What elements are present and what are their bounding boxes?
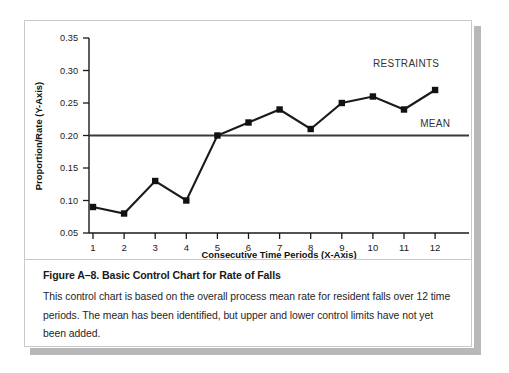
figure-box: 0.050.100.150.200.250.300.35 12345678910… (24, 20, 472, 347)
control-chart-panel: 0.050.100.150.200.250.300.35 12345678910… (25, 21, 471, 259)
figure-caption-body: This control chart is based on the overa… (43, 288, 455, 344)
caption-divider (25, 259, 471, 260)
y-tick-label: 0.35 (60, 33, 78, 43)
x-tick-label: 10 (368, 242, 379, 253)
series-label-restraints: RESTRAINTS (373, 58, 439, 69)
data-point-marker (432, 87, 438, 93)
figure-caption-title: Figure A–8. Basic Control Chart for Rate… (43, 269, 455, 281)
x-tick-label: 3 (153, 242, 158, 253)
y-tick-label-group: 0.050.100.150.200.250.300.35 (60, 33, 78, 238)
figure-shadow-bottom (30, 348, 481, 355)
data-point-marker (339, 100, 345, 106)
data-point-marker (370, 93, 376, 99)
figure-shadow-right (474, 26, 481, 353)
data-point-marker (276, 106, 282, 112)
data-point-marker (183, 197, 189, 203)
x-tick-label: 11 (399, 242, 409, 253)
y-tick-label: 0.30 (60, 66, 78, 76)
x-axis-title: Consecutive Time Periods (X-Axis) (201, 249, 356, 259)
series-marker-group (90, 87, 439, 217)
y-tick-label: 0.15 (60, 163, 78, 173)
series-line-restraints (93, 90, 435, 214)
y-tick-group (83, 38, 89, 233)
data-point-marker (308, 126, 314, 132)
control-chart-svg: 0.050.100.150.200.250.300.35 12345678910… (25, 21, 471, 259)
y-tick-label: 0.20 (60, 131, 78, 141)
data-point-marker (121, 210, 127, 216)
data-point-marker (152, 178, 158, 184)
data-point-marker (245, 119, 251, 125)
y-tick-label: 0.10 (60, 196, 78, 206)
reference-label-mean: MEAN (420, 118, 450, 129)
x-tick-label: 2 (121, 242, 126, 253)
y-tick-label: 0.05 (60, 228, 78, 238)
data-point-marker (90, 204, 96, 210)
x-tick-label: 12 (430, 242, 441, 253)
data-point-marker (401, 106, 407, 112)
x-tick-label: 1 (90, 242, 95, 253)
x-tick-label: 4 (184, 242, 190, 253)
x-tick-group (93, 233, 435, 239)
y-tick-label: 0.25 (60, 98, 78, 108)
figure-caption-block: Figure A–8. Basic Control Chart for Rate… (43, 269, 455, 344)
data-point-marker (214, 132, 220, 138)
y-axis-title: Proportion/Rate (Y-Axis) (33, 82, 44, 190)
